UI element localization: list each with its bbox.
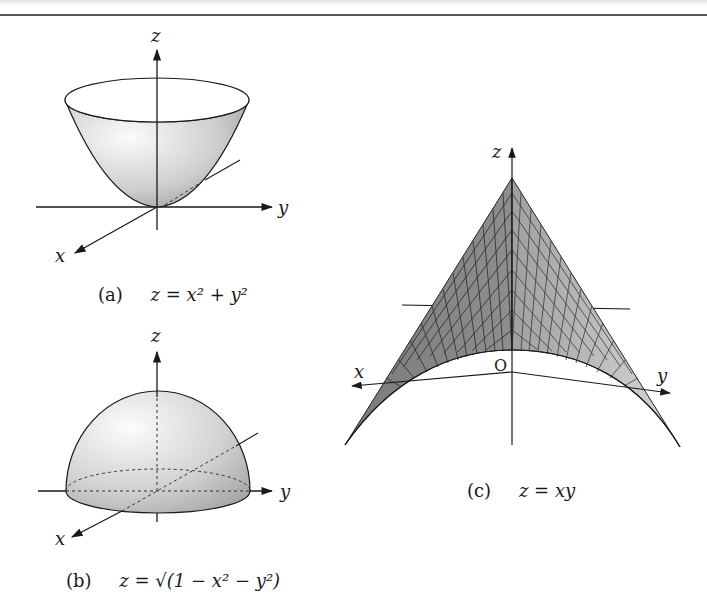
fig-b-z-label: z — [150, 325, 161, 346]
caption-c: (c) z = xy — [467, 480, 575, 501]
caption-c-label: (c) — [467, 480, 491, 501]
caption-a-label: (a) — [98, 284, 123, 305]
figure-a-paraboloid: z y x — [36, 25, 289, 266]
caption-b-lhs: z = — [119, 570, 149, 591]
caption-b-label: (b) — [66, 570, 92, 591]
fig-a-z-label: z — [150, 25, 161, 46]
fig-a-x-axis — [75, 207, 157, 253]
fig-c-left-wing — [345, 178, 512, 445]
fig-b-dome-surface — [66, 391, 250, 513]
caption-a-rhs: x² + y² — [187, 284, 248, 305]
caption-b-rhs: √(1 − x² − y²) — [155, 570, 280, 591]
caption-b: (b) z = √(1 − x² − y²) — [66, 570, 280, 591]
fig-c-x-axis — [352, 372, 512, 386]
fig-c-y-label: y — [656, 365, 668, 386]
figure-b-hemisphere: z y x — [38, 325, 291, 549]
fig-c-z-label: z — [491, 141, 502, 162]
fig-a-x-label: x — [55, 245, 65, 266]
figure-c-saddle: z x y O — [345, 141, 680, 447]
fig-c-y-axis — [512, 372, 670, 393]
caption-a-lhs: z = — [151, 284, 181, 305]
fig-c-right-wing — [512, 178, 680, 447]
figures-canvas: z y x z y x — [0, 0, 707, 614]
fig-a-y-label: y — [277, 197, 289, 218]
caption-c-lhs: z = — [519, 480, 549, 501]
fig-b-x-axis — [72, 511, 122, 537]
caption-c-rhs: xy — [555, 480, 575, 501]
caption-a: (a) z = x² + y² — [98, 284, 248, 305]
fig-c-origin-label: O — [494, 356, 507, 375]
fig-b-back-axis — [236, 433, 258, 446]
fig-b-x-label: x — [55, 528, 65, 549]
fig-c-x-label: x — [354, 361, 364, 382]
fig-b-y-label: y — [279, 481, 291, 502]
